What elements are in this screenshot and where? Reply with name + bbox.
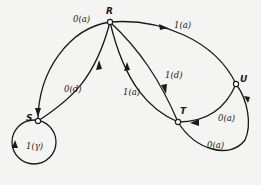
node-label-r: R [106,6,113,16]
node-r [107,19,112,24]
node-u [233,81,238,86]
edge-label-s-to-r: 0(d) [64,84,81,94]
arrow-icon [12,140,18,148]
edge-label-t-to-u: 0(a) [207,140,224,150]
node-label-u: U [240,74,248,84]
edge-label-u-to-t: 0(a) [218,113,235,123]
edge-label-s-self: 1(γ) [26,141,43,151]
node-s [35,118,40,123]
node-label-t: T [180,106,187,116]
node-label-s: S [26,113,32,123]
arrow-icon [35,108,41,117]
edge-r-to-s [38,22,110,121]
edge-label-r-to-t: 1(d) [165,70,182,80]
node-t [175,119,180,124]
arrow-icon [96,60,102,70]
edge-label-r-to-s: 0(a) [73,14,90,24]
arrow-icon [159,24,168,30]
edge-label-t-to-r: 1(a) [123,87,140,97]
state-diagram: R S T U 0(a) 0(d) 1(a) 1(d) 1(a) 0(a) 0(… [0,0,261,185]
edge-label-r-to-u: 1(a) [174,20,191,30]
